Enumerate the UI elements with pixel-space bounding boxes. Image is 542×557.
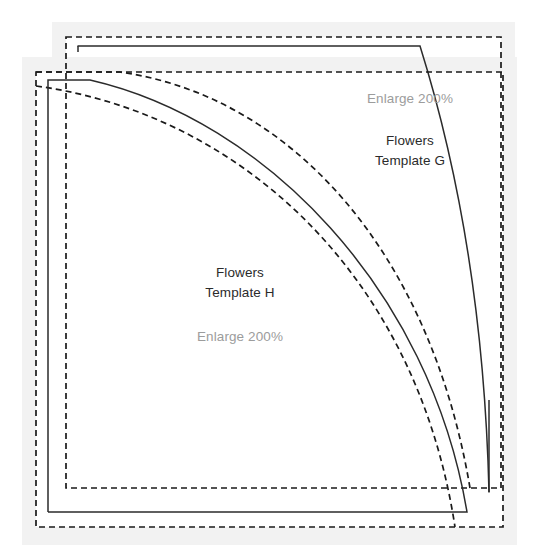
sheet-g-title-line1: Flowers	[330, 131, 490, 151]
sheet-h-title-line2: Template H	[150, 283, 330, 303]
sheet-g-title-line2: Template G	[330, 151, 490, 171]
sheet-h-title-line1: Flowers	[150, 263, 330, 283]
sheet-h-enlarge-note: Enlarge 200%	[150, 327, 330, 347]
sheet-g-title: Flowers Template G	[330, 131, 490, 170]
sheet-h-title: Flowers Template H	[150, 263, 330, 302]
template-sheet-diagram: Enlarge 200% Flowers Template G Flowers …	[0, 0, 542, 557]
sheet-g-enlarge-note: Enlarge 200%	[330, 89, 490, 109]
